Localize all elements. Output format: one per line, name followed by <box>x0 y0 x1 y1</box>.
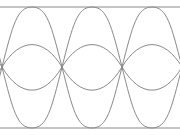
lower-transition-arc <box>62 67 122 128</box>
eye-diagram: eye-diagram <box>0 0 180 136</box>
upper-transition-arc <box>62 7 122 67</box>
lower-transition-arc <box>2 67 62 128</box>
upper-transition-arc <box>2 7 62 67</box>
signal-traces <box>0 7 180 128</box>
lower-transition-arc <box>122 67 180 128</box>
inner-upper-bump <box>122 45 180 68</box>
inner-lower-dip <box>2 67 62 90</box>
upper-transition-arc <box>0 7 2 67</box>
eye-diagram-canvas <box>0 0 180 136</box>
inner-upper-bump <box>62 45 122 68</box>
inner-lower-dip <box>62 67 122 90</box>
inner-upper-bump <box>2 45 62 68</box>
upper-transition-arc <box>122 7 180 67</box>
inner-lower-dip <box>122 67 180 90</box>
lower-transition-arc <box>0 67 2 128</box>
